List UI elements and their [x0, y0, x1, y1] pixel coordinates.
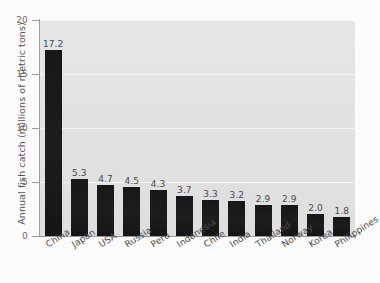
bar-group[interactable]: 4.3 [150, 20, 167, 236]
bar-group[interactable]: 5.3 [71, 20, 88, 236]
y-axis-tick [32, 20, 39, 21]
bar[interactable] [71, 179, 88, 236]
bar[interactable] [97, 185, 114, 236]
bar-value-label: 2.9 [269, 194, 309, 204]
bar-group[interactable]: 2.0 [307, 20, 324, 236]
bar-group[interactable]: 3.3 [202, 20, 219, 236]
bar[interactable] [123, 187, 140, 236]
y-axis-tick [32, 182, 39, 183]
bar-group[interactable]: 3.7 [176, 20, 193, 236]
bar-group[interactable]: 4.5 [123, 20, 140, 236]
bar-value-label: 1.8 [322, 206, 362, 216]
caption-sliver [18, 278, 348, 283]
y-axis-tick [32, 74, 39, 75]
y-axis-line [39, 19, 40, 237]
y-axis-tick [32, 128, 39, 129]
bar-group[interactable]: 4.7 [97, 20, 114, 236]
bar[interactable] [150, 190, 167, 236]
bar-group[interactable]: 1.8 [333, 20, 350, 236]
plot-area: 17.25.34.74.54.33.73.33.22.92.92.01.8 [40, 20, 355, 236]
bar[interactable] [45, 50, 62, 236]
bar-group[interactable]: 17.2 [45, 20, 62, 236]
y-axis-title: Annual fish catch (millions of metric to… [16, 9, 27, 239]
y-axis-tick [32, 236, 39, 237]
